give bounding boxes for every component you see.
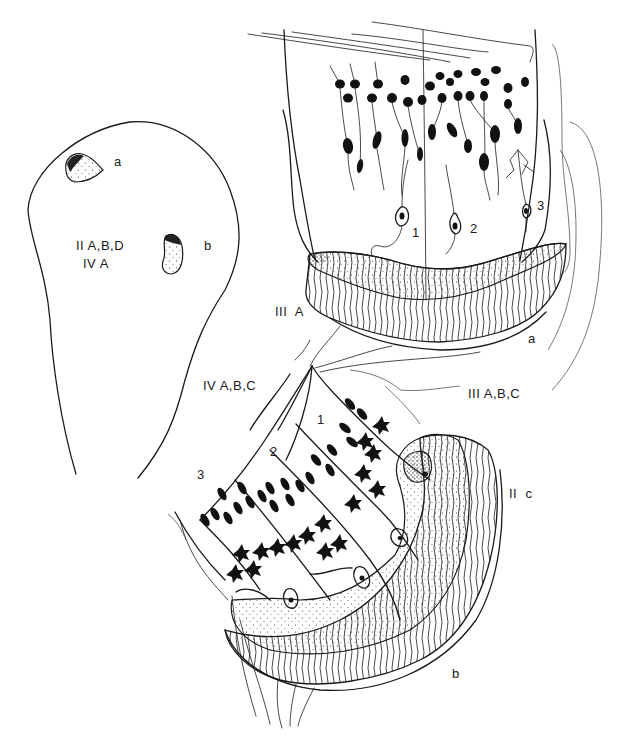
- overview-nucleus-a-label: a: [114, 154, 122, 169]
- lower-cell-label-1: 1: [317, 412, 325, 427]
- tract-iii-abc-label: III A,B,C: [468, 386, 520, 401]
- side-label-iic: II c: [509, 486, 532, 501]
- lower-nucleus-b-label: b: [452, 666, 460, 681]
- overview-outline: [28, 122, 239, 478]
- lower-cell-label-2: 2: [270, 444, 278, 459]
- overview-region-label-2: IV A: [83, 256, 109, 271]
- upper-nucleus-a-label: a: [528, 331, 536, 346]
- upper-detail: [248, 22, 602, 390]
- upper-cell-label-1: 1: [412, 225, 420, 240]
- upper-neuron-somata: [335, 66, 529, 173]
- overview-region-label-1: II A,B,D: [76, 238, 124, 253]
- overview-nucleus-b-label: b: [204, 238, 212, 253]
- lower-spindle-cells: [198, 396, 369, 527]
- upper-nucleus-a: [306, 243, 566, 350]
- tract-iii-a-label: III A: [275, 304, 304, 319]
- upper-cell-label-3: 3: [537, 198, 545, 213]
- upper-cell-label-2: 2: [470, 221, 478, 236]
- diagram-canvas: [0, 0, 618, 740]
- upper-projection-neurons: [371, 150, 534, 256]
- lower-cell-label-3: 3: [197, 467, 205, 482]
- tract-iv-abc-label: IV A,B,C: [203, 378, 256, 393]
